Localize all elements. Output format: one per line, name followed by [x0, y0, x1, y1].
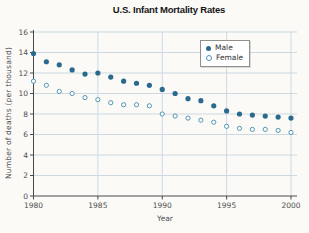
female-data-point: [147, 104, 151, 108]
female-data-point: [57, 89, 61, 93]
legend-item-male: Male: [206, 43, 245, 53]
male-data-point: [185, 96, 190, 101]
y-tick-label: 8: [23, 110, 28, 119]
y-axis-title: Number of deaths (per thousand): [4, 47, 13, 179]
female-marker-icon: [206, 55, 212, 61]
female-data-point: [186, 116, 190, 120]
male-data-point: [121, 79, 126, 84]
female-data-point: [122, 103, 126, 107]
y-tick-label: 2: [23, 171, 28, 180]
male-data-point: [173, 91, 178, 96]
y-tick-label: 14: [18, 48, 28, 57]
male-data-point: [250, 112, 255, 117]
legend-item-female: Female: [206, 53, 245, 63]
male-data-point: [147, 83, 152, 88]
y-tick-label: 4: [23, 151, 28, 160]
female-data-point: [250, 127, 254, 131]
female-data-point: [263, 127, 267, 131]
male-data-point: [108, 75, 113, 80]
male-data-point: [57, 62, 62, 67]
x-axis-title: Year: [36, 214, 294, 223]
legend-label-male: Male: [215, 43, 233, 53]
female-data-point: [237, 126, 241, 130]
male-data-point: [31, 51, 36, 56]
male-data-point: [211, 103, 216, 108]
x-tick-label: 1985: [88, 201, 107, 210]
male-data-point: [237, 111, 242, 116]
legend-label-female: Female: [216, 53, 243, 63]
female-data-point: [83, 96, 87, 100]
female-data-point: [160, 112, 164, 116]
female-data-point: [212, 120, 216, 124]
male-data-point: [160, 87, 165, 92]
legend: Male Female: [200, 40, 250, 67]
female-data-point: [134, 103, 138, 107]
male-data-point: [44, 59, 49, 64]
y-tick-label: 10: [18, 89, 28, 98]
female-data-point: [44, 83, 48, 87]
female-data-point: [199, 118, 203, 122]
male-data-point: [70, 67, 75, 72]
female-data-point: [109, 101, 113, 105]
y-tick-label: 12: [18, 69, 28, 78]
male-data-point: [134, 81, 139, 86]
female-data-point: [225, 124, 229, 128]
female-data-point: [70, 91, 74, 95]
female-data-point: [173, 114, 177, 118]
plot-area: 024681012141619801985199019952000: [0, 0, 309, 233]
male-data-point: [82, 71, 87, 76]
female-data-point: [276, 128, 280, 132]
x-tick-label: 1980: [24, 201, 43, 210]
x-tick-label: 1990: [153, 201, 172, 210]
male-data-point: [95, 70, 100, 75]
male-data-point: [263, 113, 268, 118]
male-data-point: [288, 116, 293, 121]
x-tick-label: 2000: [281, 201, 300, 210]
y-tick-label: 16: [18, 28, 28, 37]
y-tick-label: 0: [23, 192, 28, 201]
male-data-point: [224, 108, 229, 113]
x-tick-label: 1995: [217, 201, 236, 210]
male-data-point: [198, 98, 203, 103]
female-data-point: [96, 98, 100, 102]
y-tick-label: 6: [23, 130, 28, 139]
chart-figure: U.S. Infant Mortality Rates 024681012141…: [0, 0, 309, 233]
female-data-point: [289, 130, 293, 134]
female-data-point: [31, 79, 35, 83]
male-data-point: [276, 114, 281, 119]
male-marker-icon: [206, 46, 211, 51]
